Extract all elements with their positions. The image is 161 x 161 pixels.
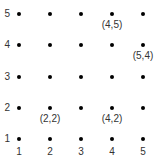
lattice-point-5-2 bbox=[141, 106, 145, 110]
x-label-5: 5 bbox=[137, 147, 149, 157]
lattice-point-4-3 bbox=[110, 75, 114, 79]
lattice-point-5-4 bbox=[141, 43, 145, 47]
lattice-point-3-1 bbox=[79, 137, 83, 141]
lattice-point-4-4 bbox=[110, 43, 114, 47]
y-label-3: 3 bbox=[0, 72, 10, 82]
lattice-point-3-3 bbox=[79, 75, 83, 79]
point-label-4-2: (4,2) bbox=[97, 114, 127, 124]
lattice-point-4-5 bbox=[110, 12, 114, 16]
lattice-point-2-5 bbox=[48, 12, 52, 16]
lattice-point-1-1 bbox=[17, 137, 21, 141]
lattice-point-1-4 bbox=[17, 43, 21, 47]
y-label-5: 5 bbox=[0, 9, 10, 19]
lattice-point-4-1 bbox=[110, 137, 114, 141]
point-label-2-2: (2,2) bbox=[35, 114, 65, 124]
point-label-4-5: (4,5) bbox=[97, 20, 127, 30]
lattice-point-5-5 bbox=[141, 12, 145, 16]
lattice-point-2-3 bbox=[48, 75, 52, 79]
lattice-point-2-2 bbox=[48, 106, 52, 110]
lattice-point-1-5 bbox=[17, 12, 21, 16]
lattice-point-1-2 bbox=[17, 106, 21, 110]
x-label-1: 1 bbox=[13, 147, 25, 157]
y-label-4: 4 bbox=[0, 40, 10, 50]
lattice-point-5-3 bbox=[141, 75, 145, 79]
lattice-point-4-2 bbox=[110, 106, 114, 110]
lattice-point-2-1 bbox=[48, 137, 52, 141]
lattice-point-1-3 bbox=[17, 75, 21, 79]
lattice-point-3-4 bbox=[79, 43, 83, 47]
y-label-1: 1 bbox=[0, 134, 10, 144]
x-label-4: 4 bbox=[106, 147, 118, 157]
lattice-point-3-2 bbox=[79, 106, 83, 110]
lattice-point-2-4 bbox=[48, 43, 52, 47]
lattice-point-5-1 bbox=[141, 137, 145, 141]
point-label-5-4: (5,4) bbox=[128, 51, 158, 61]
x-label-3: 3 bbox=[75, 147, 87, 157]
lattice-point-3-5 bbox=[79, 12, 83, 16]
y-label-2: 2 bbox=[0, 103, 10, 113]
x-label-2: 2 bbox=[44, 147, 56, 157]
